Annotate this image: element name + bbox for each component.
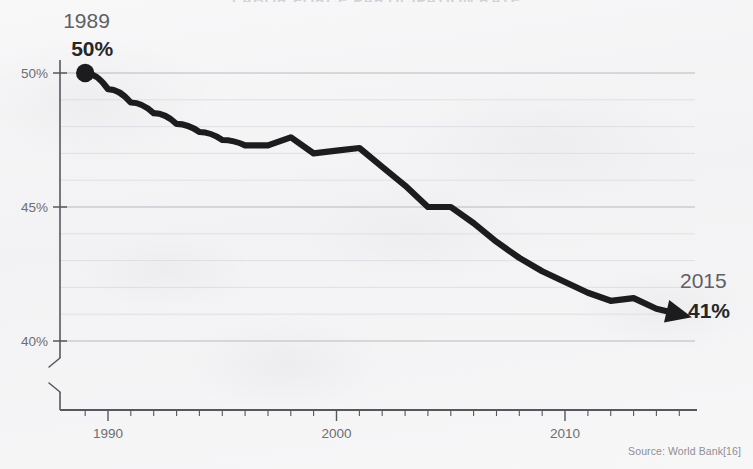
x-tick-label: 2000 [321, 426, 351, 441]
line-chart: 50%45%40% 199020002010 1989 50% 2015 41% [0, 0, 753, 469]
y-tick-label: 40% [21, 334, 48, 349]
source-note: Source: World Bank[16] [628, 445, 741, 457]
x-tick-label: 2010 [550, 426, 580, 441]
x-axis-tick-labels: 199020002010 [93, 426, 580, 441]
y-axis-tick-labels: 50%45%40% [21, 66, 48, 349]
start-point-marker [76, 64, 94, 82]
y-axis-break-icon [49, 358, 60, 392]
start-callout-year: 1989 [63, 9, 110, 32]
end-callout-year: 2015 [680, 269, 727, 292]
x-axis: 199020002010 [60, 410, 697, 441]
y-tick-label: 50% [21, 66, 48, 81]
start-callout-value: 50% [71, 37, 113, 60]
x-tick-label: 1990 [93, 426, 123, 441]
y-tick-label: 45% [21, 200, 48, 215]
end-callout-value: 41% [688, 299, 730, 322]
data-series-line [85, 73, 679, 314]
y-axis: 50%45%40% [21, 60, 67, 410]
